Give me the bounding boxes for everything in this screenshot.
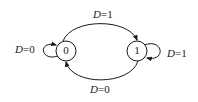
transition-label-1-to-0: D=0 [90,84,110,95]
transition-var: D [90,83,98,95]
transition-label-self-1: D=1 [167,48,187,59]
state-label-1: 1 [127,45,147,56]
transition-value: =1 [175,47,187,59]
transition-value: =1 [101,8,113,20]
transition-label-self-0: D=0 [15,44,35,55]
state-diagram: 0 1 D=0 D=1 D=1 D=0 [0,0,198,102]
transition-value: =0 [98,83,110,95]
transition-arc-1-to-0 [66,61,138,80]
state-label-0: 0 [56,45,76,56]
transition-var: D [167,47,175,59]
transition-arc-0-to-1 [63,24,137,41]
transition-var: D [93,8,101,20]
transition-var: D [15,43,23,55]
transition-label-0-to-1: D=1 [93,9,113,20]
transition-value: =0 [23,43,35,55]
